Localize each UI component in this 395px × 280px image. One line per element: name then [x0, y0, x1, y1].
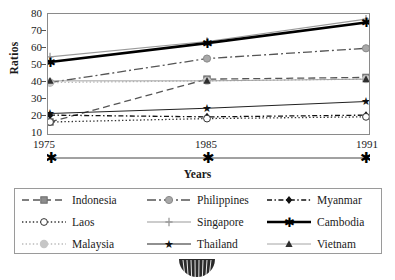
y-tick-mark	[41, 47, 46, 48]
x-tick-label: 1985	[195, 138, 217, 150]
legend-key-vietnam	[266, 238, 312, 250]
x-tick-label: 1991	[356, 138, 378, 150]
y-tick-label: 40	[20, 76, 42, 87]
y-tick-label: 50	[20, 59, 42, 70]
legend-item-cambodia[interactable]: ✱Cambodia	[266, 216, 384, 228]
legend-item-indonesia[interactable]: Indonesia	[21, 194, 146, 206]
y-tick-label: 80	[20, 8, 42, 19]
legend-key-laos	[21, 216, 67, 228]
y-tick-label: 10	[20, 127, 42, 138]
svg-text:✱: ✱	[360, 150, 371, 166]
x-axis-title: Years	[0, 168, 395, 180]
legend-item-singapore[interactable]: Singapore	[146, 216, 266, 228]
legend-label: Indonesia	[72, 194, 117, 206]
svg-text:★: ★	[164, 238, 174, 250]
line-chart: Ratios 80 70 60 50 40 30 20 10 ✱✱✱★★★ 19…	[0, 0, 395, 182]
series-canvas: ✱✱✱★★★	[48, 14, 369, 134]
chart-page: Ratios 80 70 60 50 40 30 20 10 ✱✱✱★★★ 19…	[0, 0, 395, 280]
legend-item-laos[interactable]: Laos	[21, 216, 146, 228]
y-tick-label: 70	[20, 25, 42, 36]
svg-text:✱: ✱	[47, 150, 58, 166]
y-tick-mark	[41, 64, 46, 65]
y-tick-label: 60	[20, 42, 42, 53]
y-tick-mark	[41, 98, 46, 99]
legend-key-cambodia: ✱	[266, 216, 312, 228]
legend-item-vietnam[interactable]: Vietnam	[266, 238, 384, 250]
y-tick-label: 20	[20, 110, 42, 121]
legend-label: Laos	[72, 216, 94, 228]
legend-label: Thailand	[197, 238, 238, 250]
y-axis-tick-labels: 80 70 60 50 40 30 20 10	[18, 0, 42, 182]
legend-label: Singapore	[197, 216, 244, 228]
legend-key-singapore	[146, 216, 192, 228]
svg-text:✱: ✱	[361, 15, 370, 30]
plot-area: ✱✱✱★★★	[47, 13, 370, 135]
svg-text:✱: ✱	[48, 55, 56, 70]
svg-text:★: ★	[361, 95, 369, 107]
legend-item-thailand[interactable]: ★Thailand	[146, 238, 266, 250]
y-tick-mark	[41, 81, 46, 82]
legend-key-myanmar	[266, 194, 312, 206]
svg-text:★: ★	[48, 107, 55, 119]
y-tick-mark	[41, 115, 46, 116]
legend-key-indonesia	[21, 194, 67, 206]
svg-text:✱: ✱	[284, 216, 295, 228]
legend-item-myanmar[interactable]: Myanmar	[266, 194, 384, 206]
svg-text:✱: ✱	[202, 36, 213, 51]
chart-legend: IndonesiaPhilippinesMyanmarLaosSingapore…	[14, 188, 382, 254]
legend-label: Myanmar	[317, 194, 362, 206]
legend-label: Philippines	[197, 194, 249, 206]
legend-key-philippines	[146, 194, 192, 206]
y-tick-label: 30	[20, 93, 42, 104]
svg-text:★: ★	[202, 102, 212, 114]
svg-text:✱: ✱	[202, 150, 215, 166]
x-tick-label: 1975	[33, 138, 55, 150]
legend-label: Malaysia	[72, 238, 114, 250]
legend-key-thailand: ★	[146, 238, 192, 250]
legend-key-malaysia	[21, 238, 67, 250]
legend-item-philippines[interactable]: Philippines	[146, 194, 266, 206]
y-tick-mark	[41, 30, 46, 31]
decorative-fan-ornament	[177, 258, 217, 278]
legend-label: Vietnam	[317, 238, 356, 250]
legend-label: Cambodia	[317, 216, 364, 228]
cambodia-axis-line: ✱ ✱ ✱	[47, 150, 370, 166]
legend-item-malaysia[interactable]: Malaysia	[21, 238, 146, 250]
